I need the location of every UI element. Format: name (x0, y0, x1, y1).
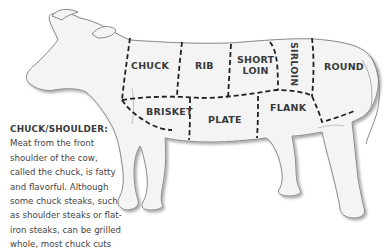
description-line: shoulder of the cow, (10, 151, 122, 165)
description-line: Meat from the front (10, 136, 122, 150)
cut-label-plate: PLATE (208, 114, 242, 125)
cut-label-round: ROUND (324, 61, 364, 72)
description-line: iron steaks, can be grilled (10, 223, 122, 237)
description-line: and flavorful. Although (10, 180, 122, 194)
description-line: whole, most chuck cuts (10, 237, 122, 251)
cut-label-rib: RIB (195, 60, 214, 71)
description-line: as shoulder steaks or flat- (10, 208, 122, 222)
description-line: called the chuck, is fatty (10, 165, 122, 179)
cut-label-chuck: CHUCK (131, 60, 169, 71)
description-title: CHUCK/SHOULDER: (10, 122, 122, 136)
cut-label-short-loin-line1: SHORT (237, 54, 274, 65)
cut-label-flank: FLANK (270, 102, 306, 113)
cut-label-sirloin: SIRLOIN (289, 42, 300, 86)
description-line: some chuck steaks, such (10, 194, 122, 208)
cut-label-short-loin: SHORT LOIN (237, 54, 274, 76)
cut-label-short-loin-line2: LOIN (237, 65, 274, 76)
cut-description: CHUCK/SHOULDER: Meat from the front shou… (10, 122, 122, 252)
cut-label-brisket: BRISKET (146, 106, 193, 117)
